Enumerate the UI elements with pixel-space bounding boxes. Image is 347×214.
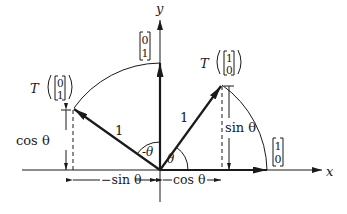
rotation-diagram: x y cos θ sin θ −sin θ cos θ θ -θ 1 1 xyxy=(0,0,347,214)
neg-theta-label: -θ xyxy=(142,145,154,159)
T-e2-entry-bottom: 1 xyxy=(57,89,64,101)
upper-arc xyxy=(74,63,160,108)
T-e1-entry-bottom: 0 xyxy=(226,64,233,76)
length-label-T-e2: 1 xyxy=(115,123,123,138)
length-label-T-e1: 1 xyxy=(180,110,188,125)
cos-vertical-label: cos θ xyxy=(16,133,50,148)
angle-arc-theta xyxy=(176,147,188,170)
T-e2-label: T 0 1 xyxy=(30,75,72,101)
e2-entry-top: 0 xyxy=(142,34,149,47)
e1-entry-bottom: 0 xyxy=(275,153,282,166)
T-e2-prefix: T xyxy=(30,81,40,96)
y-axis-label: y xyxy=(155,1,164,16)
T-e1-entry-top: 1 xyxy=(226,52,233,64)
dimension-cos-vertical xyxy=(61,110,71,170)
x-axis-label: x xyxy=(326,164,334,179)
T-e1-prefix: T xyxy=(200,56,210,71)
sin-vertical-label: sin θ xyxy=(225,120,256,135)
e2-entry-bottom: 1 xyxy=(142,47,149,60)
T-e2-entry-top: 0 xyxy=(57,77,64,89)
neg-sin-horizontal-label: −sin θ xyxy=(101,172,141,187)
e2-column-vector: 0 1 xyxy=(140,32,150,60)
vector-T-e2 xyxy=(74,109,160,170)
cos-horizontal-label: cos θ xyxy=(173,172,205,187)
e1-column-vector: 1 0 xyxy=(273,138,283,166)
T-e1-label: T 1 0 xyxy=(200,50,241,76)
theta-label: θ xyxy=(167,152,175,166)
e1-entry-top: 1 xyxy=(275,140,282,153)
